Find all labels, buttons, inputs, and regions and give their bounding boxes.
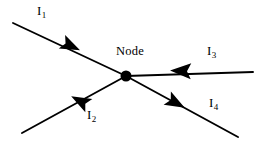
node-label: Node: [116, 45, 144, 58]
branch-label-i3-sub: 3: [211, 50, 216, 60]
circuit-node-diagram: [0, 0, 256, 148]
arrowhead-i3: [170, 63, 192, 80]
branch-label-i4: I4: [209, 96, 218, 112]
branch-label-i1-sub: 1: [41, 10, 46, 20]
branch-label-i2-sub: 2: [91, 114, 96, 124]
diagram-canvas: Node I1 I2 I3 I4: [0, 0, 256, 148]
branch-label-i3: I3: [207, 44, 216, 60]
branch-label-i1: I1: [37, 4, 46, 20]
branch-line-i3: [126, 72, 253, 76]
node-dot: [121, 71, 132, 82]
branch-label-i4-sub: 4: [213, 102, 218, 112]
branch-line-i2: [22, 76, 126, 133]
branch-label-i2: I2: [87, 108, 96, 124]
arrowhead-i4: [164, 92, 189, 115]
branch-line-i1: [13, 23, 126, 76]
